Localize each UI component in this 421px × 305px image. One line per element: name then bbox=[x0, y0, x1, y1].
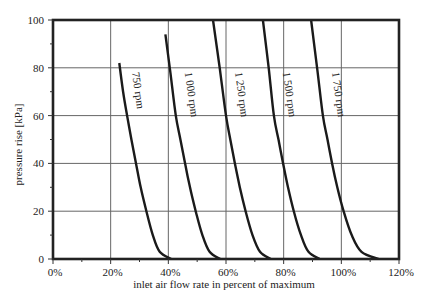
curve-label: 1 750 rpm bbox=[330, 71, 348, 118]
x-tick-label: 20% bbox=[103, 266, 123, 278]
x-tick-label: 60% bbox=[218, 266, 238, 278]
chart: 750 rpm1 000 rpm1 250 rpm1 500 rpm1 750 … bbox=[0, 0, 421, 305]
curve-labels: 750 rpm1 000 rpm1 250 rpm1 500 rpm1 750 … bbox=[130, 71, 348, 118]
curve-1500rpm bbox=[263, 20, 320, 259]
x-tick-label: 120% bbox=[388, 266, 414, 278]
y-tick-label: 80 bbox=[33, 62, 45, 74]
x-tick-label: 80% bbox=[276, 266, 296, 278]
x-tick-label: 0% bbox=[48, 266, 63, 278]
curve-1750rpm bbox=[311, 20, 379, 259]
x-tick-label: 40% bbox=[160, 266, 180, 278]
y-tick-label: 60 bbox=[33, 110, 45, 122]
y-tick-label: 100 bbox=[28, 14, 45, 26]
y-axis-title: pressure rise [kPa] bbox=[12, 104, 24, 186]
curve-1250rpm bbox=[213, 20, 271, 259]
y-tick-labels: 020406080100 bbox=[28, 14, 45, 265]
curve-label: 1 250 rpm bbox=[233, 71, 251, 118]
x-tick-label: 100% bbox=[330, 266, 356, 278]
curve-label: 1 000 rpm bbox=[183, 71, 201, 118]
curve-label: 750 rpm bbox=[130, 71, 147, 110]
x-tick-labels: 0%20%40%60%80%100%120% bbox=[48, 266, 414, 278]
x-axis-title: inlet air flow rate in percent of maximu… bbox=[133, 278, 315, 290]
y-tick-label: 0 bbox=[39, 253, 45, 265]
ticks bbox=[48, 20, 399, 264]
y-tick-label: 40 bbox=[33, 157, 45, 169]
y-tick-label: 20 bbox=[33, 205, 45, 217]
curves bbox=[119, 20, 379, 259]
